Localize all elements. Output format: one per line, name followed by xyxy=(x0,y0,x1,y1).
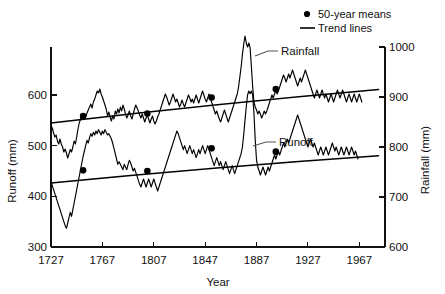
xtick-label-1967: 1967 xyxy=(347,254,373,266)
right-tick-labels: 1000 900 800 700 600 xyxy=(389,41,415,253)
legend: 50-year means Trend lines xyxy=(300,8,392,34)
ytick-label-right-600: 600 xyxy=(389,241,408,253)
rainfall-mean-dot-1852 xyxy=(208,94,215,101)
runoff-annotation-label: Runoff xyxy=(279,136,313,148)
rainfall-annotation-label: Rainfall xyxy=(281,45,319,57)
right-axis-title: Rainfall (mm) xyxy=(419,126,431,195)
ytick-label-left-300: 300 xyxy=(28,241,47,253)
rainfall-mean-dot-1902 xyxy=(273,86,280,93)
runoff-50-year-mean-dots xyxy=(80,145,279,174)
xtick-label-1807: 1807 xyxy=(141,254,167,266)
legend-marker-50-year-means xyxy=(304,11,310,17)
left-tick-labels: 600 500 400 300 xyxy=(28,89,47,253)
legend-label-50-year-means: 50-year means xyxy=(318,8,392,20)
xtick-label-1887: 1887 xyxy=(244,254,270,266)
x-axis-title: Year xyxy=(206,276,229,288)
ytick-label-left-600: 600 xyxy=(28,89,47,101)
rainfall-mean-dot-1752 xyxy=(80,113,87,120)
rainfall-trend-line xyxy=(51,90,379,124)
xtick-label-1767: 1767 xyxy=(90,254,116,266)
ytick-label-left-500: 500 xyxy=(28,140,47,152)
runoff-mean-dot-1852 xyxy=(208,145,215,152)
ytick-label-right-700: 700 xyxy=(389,191,408,203)
left-axis-title: Runoff (mm) xyxy=(6,139,18,203)
runoff-leader-line xyxy=(253,142,276,146)
chart-figure: 50-year means Trend lines xyxy=(0,0,445,294)
annotation-rainfall: Rainfall xyxy=(255,45,319,57)
x-axis-ticks xyxy=(51,242,359,247)
rainfall-mean-dot-1802 xyxy=(144,110,151,117)
xtick-label-1927: 1927 xyxy=(295,254,321,266)
rainfall-leader-line xyxy=(255,51,278,56)
ytick-label-right-900: 900 xyxy=(389,91,408,103)
left-axis-ticks xyxy=(51,95,57,247)
runoff-mean-dot-1802 xyxy=(144,168,151,175)
series-rainfall xyxy=(51,36,379,158)
ytick-label-left-400: 400 xyxy=(28,190,47,202)
ytick-label-right-800: 800 xyxy=(389,141,408,153)
runoff-rainfall-chart: 50-year means Trend lines xyxy=(0,0,445,294)
runoff-mean-dot-1902 xyxy=(273,148,280,155)
runoff-trend-line xyxy=(51,156,379,183)
xtick-label-1847: 1847 xyxy=(192,254,218,266)
legend-label-trend-lines: Trend lines xyxy=(318,22,373,34)
right-axis-ticks xyxy=(379,47,385,247)
xtick-label-1727: 1727 xyxy=(38,254,64,266)
x-tick-labels: 1727176718071847188719271967 xyxy=(38,254,372,266)
left-axis-spine xyxy=(51,47,57,247)
annotation-runoff: Runoff xyxy=(253,136,313,148)
axes xyxy=(51,47,385,247)
ytick-label-right-1000: 1000 xyxy=(389,41,415,53)
runoff-mean-dot-1752 xyxy=(80,167,87,174)
